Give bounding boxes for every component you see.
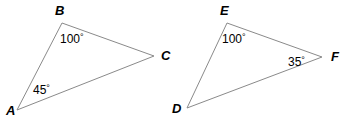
vertex-label-f: F <box>331 50 339 63</box>
angle-value: 35 <box>288 55 301 69</box>
degree-symbol-icon: ° <box>80 32 84 42</box>
degree-symbol-icon: ° <box>301 55 305 65</box>
geometry-figure: ABC100°45°DEF100°35° <box>0 0 359 125</box>
angle-label-f: 35° <box>288 56 305 68</box>
vertex-label-b: B <box>55 4 64 17</box>
angle-label-b: 100° <box>60 33 84 45</box>
degree-symbol-icon: ° <box>242 32 246 42</box>
vertex-label-e: E <box>220 4 229 17</box>
angle-label-e: 100° <box>222 33 246 45</box>
vertex-label-a: A <box>6 104 15 117</box>
angle-value: 45 <box>33 83 46 97</box>
angle-label-a: 45° <box>33 84 50 96</box>
vertex-label-c: C <box>161 49 170 62</box>
vertex-label-d: D <box>172 102 181 115</box>
angle-value: 100 <box>60 32 80 46</box>
angle-value: 100 <box>222 32 242 46</box>
degree-symbol-icon: ° <box>46 83 50 93</box>
